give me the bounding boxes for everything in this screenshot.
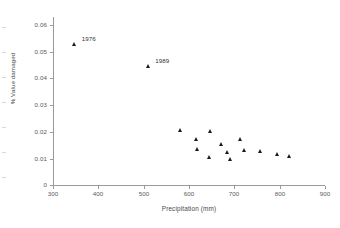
data-point-marker [275,152,279,156]
data-point-marker [207,155,211,159]
y-tick-label: 0.04 [0,75,47,81]
y-tick-label: 0.06 [0,22,47,28]
y-tick-label: 0.02 [0,129,47,135]
data-point-marker [72,42,76,46]
y-tick-mark [50,132,53,133]
x-tick-mark [325,186,326,189]
y-tick-label: 0.03 [0,102,47,108]
y-axis-title: % Value damaged [9,29,16,129]
edge-artifact [2,152,6,153]
x-tick-label: 700 [219,191,249,197]
x-tick-mark [280,186,281,189]
y-tick-mark [50,25,53,26]
y-tick-mark [50,159,53,160]
x-tick-label: 300 [38,191,68,197]
y-tick-label: 0.05 [0,49,47,55]
y-tick-mark [50,105,53,106]
edge-artifact [2,127,6,128]
data-point-marker [146,64,150,68]
data-point-marker [178,128,182,132]
x-tick-mark [98,186,99,189]
x-tick-mark [189,186,190,189]
data-point-marker [225,150,229,154]
x-tick-mark [53,186,54,189]
data-point-marker [208,129,212,133]
y-axis-line [53,17,54,186]
data-point-marker [228,157,232,161]
x-tick-label: 400 [83,191,113,197]
data-point-marker [194,137,198,141]
data-point-marker [242,148,246,152]
scatter-plot-figure: 0.06 0.05 0.04 0.03 0.02 0.01 0 300 400 … [0,0,340,228]
data-point-marker [258,149,262,153]
x-tick-label: 900 [310,191,340,197]
x-axis-title: Precipitation (mm) [53,205,325,212]
data-point-label: 1989 [155,57,169,64]
x-tick-label: 600 [174,191,204,197]
x-tick-mark [234,186,235,189]
x-tick-label: 800 [265,191,295,197]
y-tick-label: 0 [0,182,47,188]
data-point-marker [195,147,199,151]
y-tick-mark [50,78,53,79]
data-point-marker [287,154,291,158]
data-point-marker [219,142,223,146]
x-tick-mark [144,186,145,189]
y-tick-mark [50,52,53,53]
y-tick-label: 0.01 [0,156,47,162]
x-tick-label: 500 [129,191,159,197]
data-point-marker [238,137,242,141]
data-point-label: 1976 [82,35,96,42]
edge-artifact [2,177,6,178]
